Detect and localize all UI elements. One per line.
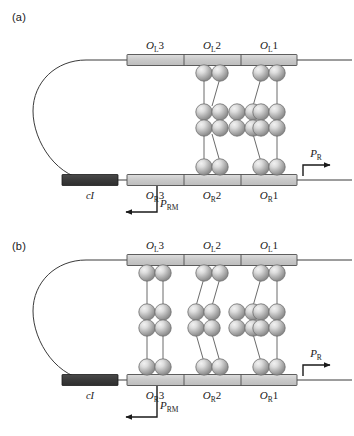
ci-gene-label-b: cI bbox=[86, 390, 95, 401]
operator-bar-bottom-rect-a bbox=[127, 175, 297, 186]
repressor-octamer-OL3-OR3-b bbox=[139, 265, 171, 375]
promoter-PR-arrow-b bbox=[303, 365, 330, 376]
operator-label-OR2-b: OR2 bbox=[203, 389, 221, 404]
dna-loop-path-b bbox=[33, 260, 127, 380]
panel-b: (b) bbox=[0, 218, 354, 436]
operator-label-OL2-a: OL2 bbox=[203, 39, 221, 54]
promoter-PRM-label-b: PRM bbox=[159, 399, 179, 414]
operator-bar-bottom-a bbox=[127, 175, 297, 186]
promoter-PR-arrow-a bbox=[303, 165, 330, 176]
repressor-octamer-OL1-OR1-b bbox=[229, 265, 285, 375]
ci-gene-label-a: cI bbox=[86, 190, 95, 201]
repressor-octamer-OL2-OR2-b bbox=[188, 265, 228, 375]
operator-label-OL2-b: OL2 bbox=[203, 239, 221, 254]
ci-gene-box-a bbox=[62, 175, 118, 186]
operator-label-OL1-b: OL1 bbox=[260, 239, 278, 254]
operator-bar-top-b bbox=[127, 255, 297, 266]
promoter-PR-label-a: PR bbox=[309, 147, 322, 162]
operator-label-OL3-b: OL3 bbox=[146, 239, 165, 254]
operator-bar-top-rect-a bbox=[127, 55, 297, 66]
operator-label-OR2-a: OR2 bbox=[203, 189, 221, 204]
dna-loop-path-a bbox=[33, 60, 127, 180]
operator-label-OL3-a: OL3 bbox=[146, 39, 165, 54]
promoter-PRM-label-a: PRM bbox=[159, 197, 179, 212]
repressor-octamer-OL1-OR1-a bbox=[229, 65, 285, 175]
operator-label-OL1-a: OL1 bbox=[260, 39, 278, 54]
operator-bar-bottom-rect-b bbox=[127, 375, 297, 386]
panel-a: (a) bbox=[0, 0, 354, 218]
operator-bar-bottom-b bbox=[127, 375, 297, 386]
operator-label-OR1-b: OR1 bbox=[260, 389, 278, 404]
operator-label-OR1-a: OR1 bbox=[260, 189, 278, 204]
panel-b-diagram: cI OL3 OL2 OL1 OR3 OR2 bbox=[0, 218, 354, 436]
ci-gene-box-b bbox=[62, 375, 118, 386]
promoter-PR-label-b: PR bbox=[309, 347, 322, 362]
operator-bar-top-rect-b bbox=[127, 255, 297, 266]
panel-a-diagram: cI OL3 OL2 OL1 OR3 OR2 bbox=[0, 0, 354, 218]
repressor-octamer-OL2-OR2-a bbox=[196, 65, 228, 175]
operator-bar-top-a bbox=[127, 55, 297, 66]
